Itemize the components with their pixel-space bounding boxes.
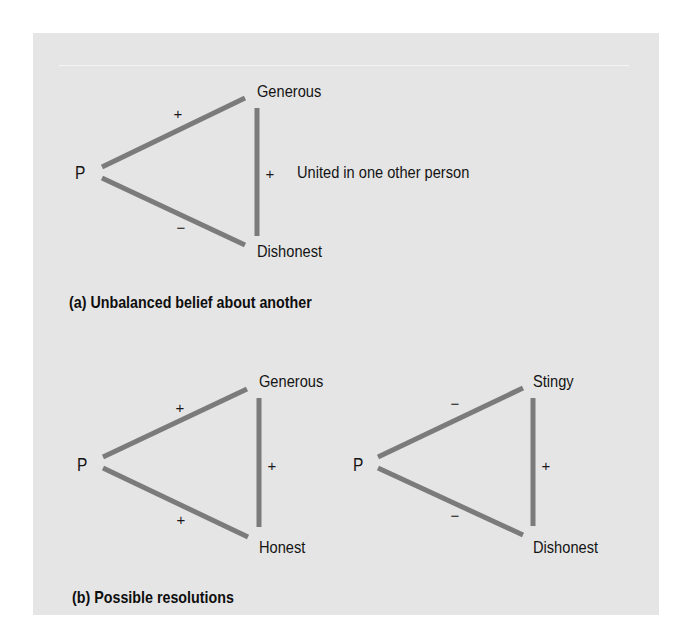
sign-p-generous: + [173,400,187,415]
sign-p-honest: + [174,512,188,527]
node-generous: Generous [257,83,321,100]
sign-generous-dishonest: + [263,166,277,181]
caption-panel-a: (a) Unbalanced belief about another [69,294,312,311]
node-stingy: Stingy [533,373,574,390]
sign-p-dishonest: − [174,220,188,235]
edge-p-dishonest [378,468,523,535]
node-honest: Honest [259,539,305,556]
caption-panel-b: (b) Possible resolutions [72,589,234,606]
node-person: P [77,456,87,474]
united-note: United in one other person [297,164,469,181]
sign-stingy-dishonest: + [539,458,553,473]
node-person: P [353,456,363,474]
node-person: P [75,164,85,182]
node-dishonest: Dishonest [533,539,598,556]
node-dishonest: Dishonest [257,243,322,260]
sign-p-stingy: − [448,396,462,411]
sign-generous-honest: + [265,458,279,473]
node-generous: Generous [259,373,323,390]
sign-p-dishonest: − [448,508,462,523]
sign-p-generous: + [171,106,185,121]
